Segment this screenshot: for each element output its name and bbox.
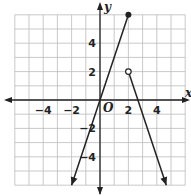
open-dot-icon bbox=[126, 69, 132, 75]
origin-label: O bbox=[103, 101, 114, 115]
y-axis-label: y bbox=[103, 0, 112, 14]
x-tick-label: 4 bbox=[153, 104, 161, 117]
y-axis-arrow-down-icon bbox=[97, 187, 103, 195]
x-tick-label: 2 bbox=[125, 104, 133, 117]
x-tick-label: −2 bbox=[63, 104, 80, 117]
y-tick-label: −2 bbox=[79, 122, 96, 135]
line-arrow-icon bbox=[160, 177, 167, 186]
y-tick-label: 2 bbox=[88, 66, 96, 79]
y-tick-label: 4 bbox=[88, 37, 96, 50]
y-axis-arrow-up-icon bbox=[97, 2, 103, 10]
axes bbox=[4, 2, 190, 195]
line-arrow-icon bbox=[71, 177, 78, 186]
piecewise-graph: −4−22442−2−4 x y O bbox=[0, 0, 191, 196]
x-tick-label: −4 bbox=[35, 104, 52, 117]
closed-dot-icon bbox=[125, 12, 131, 18]
x-axis-arrow-left-icon bbox=[4, 97, 12, 103]
x-axis-label: x bbox=[184, 86, 191, 100]
